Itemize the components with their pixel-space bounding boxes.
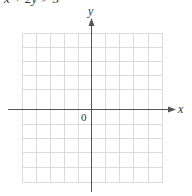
origin-label: 0 — [81, 111, 87, 123]
x-axis-arrow-icon — [168, 107, 176, 113]
coordinate-plane: x y 0 — [0, 0, 192, 196]
grid — [22, 33, 163, 183]
y-axis — [89, 18, 95, 192]
y-axis-arrow-icon — [89, 18, 95, 26]
x-axis-label: x — [177, 102, 184, 116]
y-axis-label: y — [87, 4, 94, 18]
